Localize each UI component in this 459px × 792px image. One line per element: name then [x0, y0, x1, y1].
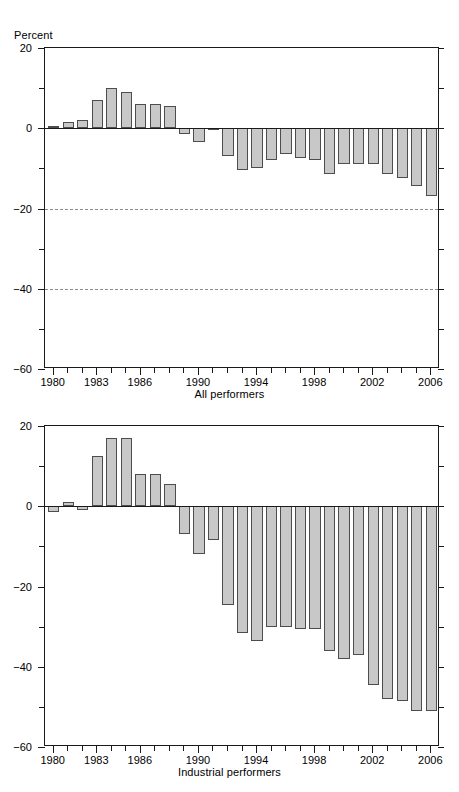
bar [164, 106, 175, 128]
x-axis-tick [96, 746, 97, 753]
x-axis-label: 1990 [186, 377, 210, 388]
x-axis-tick [430, 746, 431, 753]
y-axis-minor-tick [39, 168, 45, 169]
y-axis-minor-tick-right [438, 627, 444, 628]
y-axis-tick [38, 587, 45, 588]
x-axis-minor-tick [212, 746, 213, 751]
x-axis-minor-tick [343, 368, 344, 373]
bar [150, 474, 161, 506]
y-axis-minor-tick [39, 466, 45, 467]
x-axis-minor-tick [82, 746, 83, 751]
x-axis-label: 1986 [128, 377, 152, 388]
bar [280, 128, 291, 154]
y-axis-minor-tick [39, 546, 45, 547]
x-axis-minor-tick [300, 746, 301, 751]
bar [411, 506, 422, 711]
y-axis-tick-right [438, 747, 444, 748]
y-axis-minor-tick [39, 249, 45, 250]
x-axis-minor-tick [242, 746, 243, 751]
x-axis-label: 2006 [418, 755, 442, 766]
bar [426, 506, 437, 711]
x-axis-label: 1990 [186, 755, 210, 766]
x-axis-minor-tick [416, 746, 417, 751]
bar [106, 88, 117, 128]
x-axis-minor-tick [154, 368, 155, 373]
x-axis-minor-tick [358, 368, 359, 373]
y-axis-tick [38, 506, 45, 507]
bar [295, 128, 306, 158]
x-axis-label: 1983 [84, 755, 108, 766]
x-axis-label: 2006 [418, 377, 442, 388]
x-axis-minor-tick [154, 746, 155, 751]
bar [237, 506, 248, 632]
x-axis-minor-tick [329, 746, 330, 751]
x-axis-tick [198, 746, 199, 753]
bar [77, 120, 88, 128]
y-axis-tick-right [438, 48, 444, 49]
plot-area-industrial-performers: 200−20−40−60 [44, 425, 439, 746]
bar [164, 484, 175, 506]
x-axis-minor-tick [401, 368, 402, 373]
bar [135, 104, 146, 128]
x-axis-tick [314, 368, 315, 375]
y-axis-tick [38, 426, 45, 427]
y-axis-tick [38, 128, 45, 129]
x-axis-tick [372, 368, 373, 375]
bar [266, 128, 277, 160]
bar [353, 128, 364, 164]
bar [295, 506, 306, 628]
y-axis-tick [38, 369, 45, 370]
x-axis-minor-tick [285, 746, 286, 751]
x-axis-label: 1994 [244, 755, 268, 766]
x-axis-minor-tick [183, 746, 184, 751]
y-axis-tick [38, 667, 45, 668]
bar [121, 92, 132, 128]
chart-caption-all-performers: All performers [0, 388, 459, 400]
gridline [45, 289, 438, 290]
x-axis-label: 1983 [84, 377, 108, 388]
y-axis-label: −60 [13, 364, 32, 375]
y-axis-label: −60 [13, 742, 32, 753]
bar [193, 506, 204, 554]
y-axis-tick-right [438, 426, 444, 427]
bar [208, 506, 219, 540]
bar [135, 474, 146, 506]
x-axis-minor-tick [169, 368, 170, 373]
x-axis-minor-tick [227, 746, 228, 751]
x-axis-minor-tick [387, 746, 388, 751]
y-axis-label: 0 [26, 501, 32, 512]
y-axis-minor-tick-right [438, 168, 444, 169]
bar [106, 438, 117, 506]
bar [150, 104, 161, 128]
x-axis-tick [53, 368, 54, 375]
y-axis-label: 20 [20, 43, 32, 54]
bar [92, 456, 103, 506]
x-axis-minor-tick [183, 368, 184, 373]
x-axis-minor-tick [212, 368, 213, 373]
x-axis-minor-tick [67, 368, 68, 373]
y-axis-tick [38, 209, 45, 210]
x-axis-minor-tick [329, 368, 330, 373]
y-axis-label: 0 [26, 123, 32, 134]
x-axis-minor-tick [358, 746, 359, 751]
y-axis-tick [38, 289, 45, 290]
x-axis-minor-tick [125, 746, 126, 751]
x-axis-tick [256, 368, 257, 375]
y-axis-minor-tick [39, 627, 45, 628]
bar [353, 506, 364, 654]
y-axis-label: −20 [13, 581, 32, 592]
bar [324, 128, 335, 174]
y-axis-minor-tick-right [438, 707, 444, 708]
x-axis-minor-tick [227, 368, 228, 373]
gridline [45, 209, 438, 210]
chart-caption-industrial-performers: Industrial performers [0, 766, 459, 778]
bar [280, 506, 291, 626]
y-axis-tick-right [438, 209, 444, 210]
x-axis-tick [53, 746, 54, 753]
y-axis-unit-label: Percent [14, 30, 53, 41]
x-axis-label: 1998 [302, 377, 326, 388]
bar [193, 128, 204, 142]
x-axis-tick [372, 746, 373, 753]
x-axis-minor-tick [125, 368, 126, 373]
bar [338, 128, 349, 164]
